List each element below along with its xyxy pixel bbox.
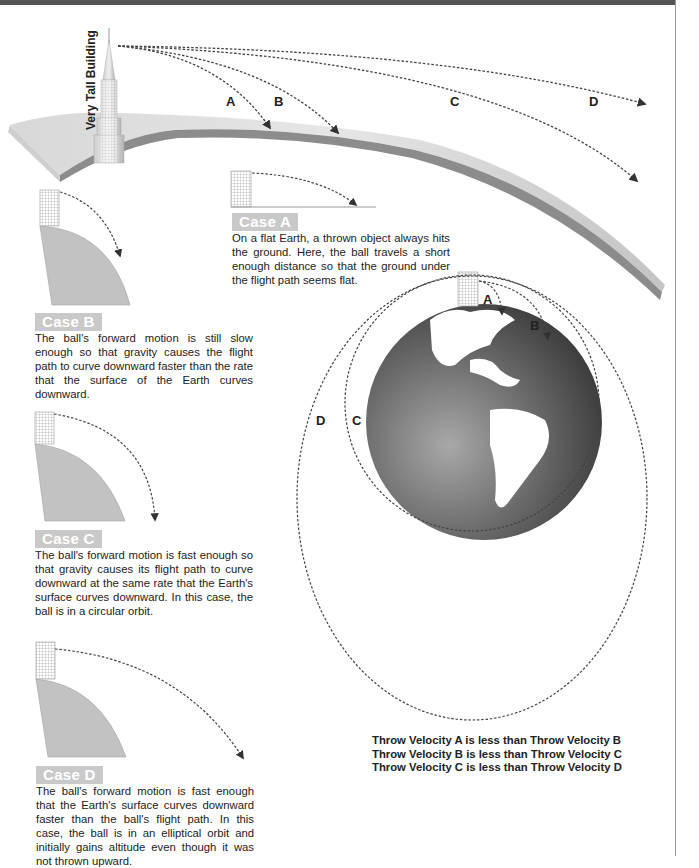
globe-building-icon bbox=[458, 272, 478, 306]
trajectory-label-b: B bbox=[274, 94, 283, 109]
globe-label-a: A bbox=[483, 292, 492, 307]
globe-label-d: D bbox=[316, 413, 325, 428]
case-c-text: The ball's forward motion is fast enough… bbox=[35, 548, 253, 618]
trajectory-label-c: C bbox=[450, 94, 459, 109]
case-a-label: Case A bbox=[232, 213, 298, 231]
case-d-text: The ball's forward motion is fast enough… bbox=[36, 784, 254, 868]
case-b-label: Case B bbox=[35, 313, 102, 331]
case-a-diagram bbox=[231, 171, 376, 207]
summary-line: Throw Velocity B is less than Throw Velo… bbox=[372, 748, 622, 762]
tall-building-icon bbox=[94, 28, 124, 163]
case-d-label: Case D bbox=[36, 766, 103, 784]
velocity-summary: Throw Velocity A is less than Throw Velo… bbox=[372, 734, 622, 775]
summary-line: Throw Velocity C is less than Throw Velo… bbox=[372, 761, 622, 775]
trajectory-label-d: D bbox=[589, 94, 598, 109]
top-trajectories bbox=[118, 46, 645, 181]
case-a-text: On a flat Earth, a thrown object always … bbox=[232, 231, 450, 287]
case-c-label: Case C bbox=[35, 530, 102, 548]
case-b-text: The ball's forward motion is still slow … bbox=[35, 331, 253, 401]
globe-label-b: B bbox=[530, 318, 539, 333]
case-d-diagram bbox=[36, 642, 243, 758]
trajectory-label-a: A bbox=[226, 94, 235, 109]
summary-line: Throw Velocity A is less than Throw Velo… bbox=[372, 734, 622, 748]
earth-globe-icon bbox=[366, 304, 602, 540]
globe-label-c: C bbox=[352, 413, 361, 428]
case-c-diagram bbox=[35, 412, 155, 521]
case-b-diagram bbox=[40, 190, 130, 305]
building-label: Very Tall Building bbox=[84, 30, 98, 130]
